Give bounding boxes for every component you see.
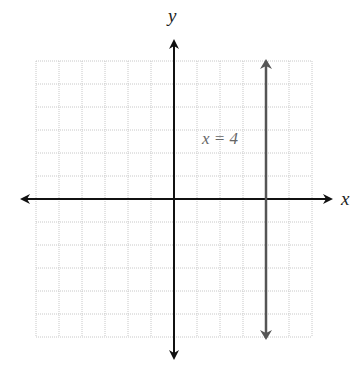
x-axis-label: x [340,188,350,209]
line-label: x = 4 [201,129,239,148]
coordinate-plane: x y x = 4 [0,0,363,374]
y-axis-label: y [166,5,177,26]
